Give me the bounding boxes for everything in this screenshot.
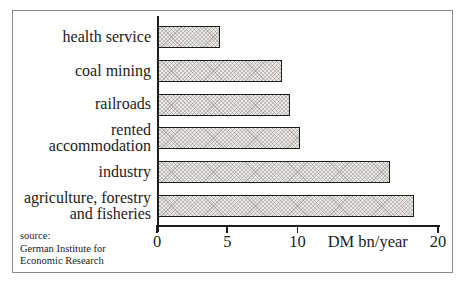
category-label: agriculture, forestry and fisheries [13, 189, 151, 223]
bar [157, 60, 282, 82]
x-tick-label: 5 [205, 232, 249, 252]
bar [157, 94, 290, 116]
category-label: coal mining [13, 54, 151, 88]
bar [157, 161, 390, 183]
x-tick-label: 0 [135, 232, 179, 252]
bar [157, 127, 300, 149]
bar [157, 195, 414, 217]
category-label: railroads [13, 88, 151, 122]
chart-frame: health servicecoal miningrailroadsrented… [12, 10, 453, 273]
chart-figure: health servicecoal miningrailroadsrented… [0, 0, 460, 284]
source-note: source: German Institute for Economic Re… [20, 230, 106, 268]
x-axis-title: DM bn/year [303, 232, 433, 252]
y-axis-line [157, 16, 159, 232]
bar [157, 26, 220, 48]
category-label: industry [13, 155, 151, 189]
category-label: health service [13, 20, 151, 54]
category-label: rented accommodation [13, 121, 151, 155]
